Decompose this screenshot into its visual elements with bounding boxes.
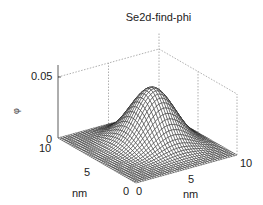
surface-plot [0,0,263,205]
axes [58,65,61,138]
x-axis-label: nm [183,189,198,200]
z-axis-label: φ [11,108,21,114]
x-tick-10: 10 [240,158,252,169]
x-tick-0: 0 [136,186,142,197]
y-tick-0: 0 [123,186,129,197]
y-axis-label: nm [72,188,87,199]
y-tick-10: 10 [39,143,51,154]
chart-title: Se2d-find-phi [27,11,263,23]
x-tick-5: 5 [188,174,194,185]
y-tick-5: 5 [84,167,90,178]
z-tick-0.05: 0.05 [31,71,52,82]
